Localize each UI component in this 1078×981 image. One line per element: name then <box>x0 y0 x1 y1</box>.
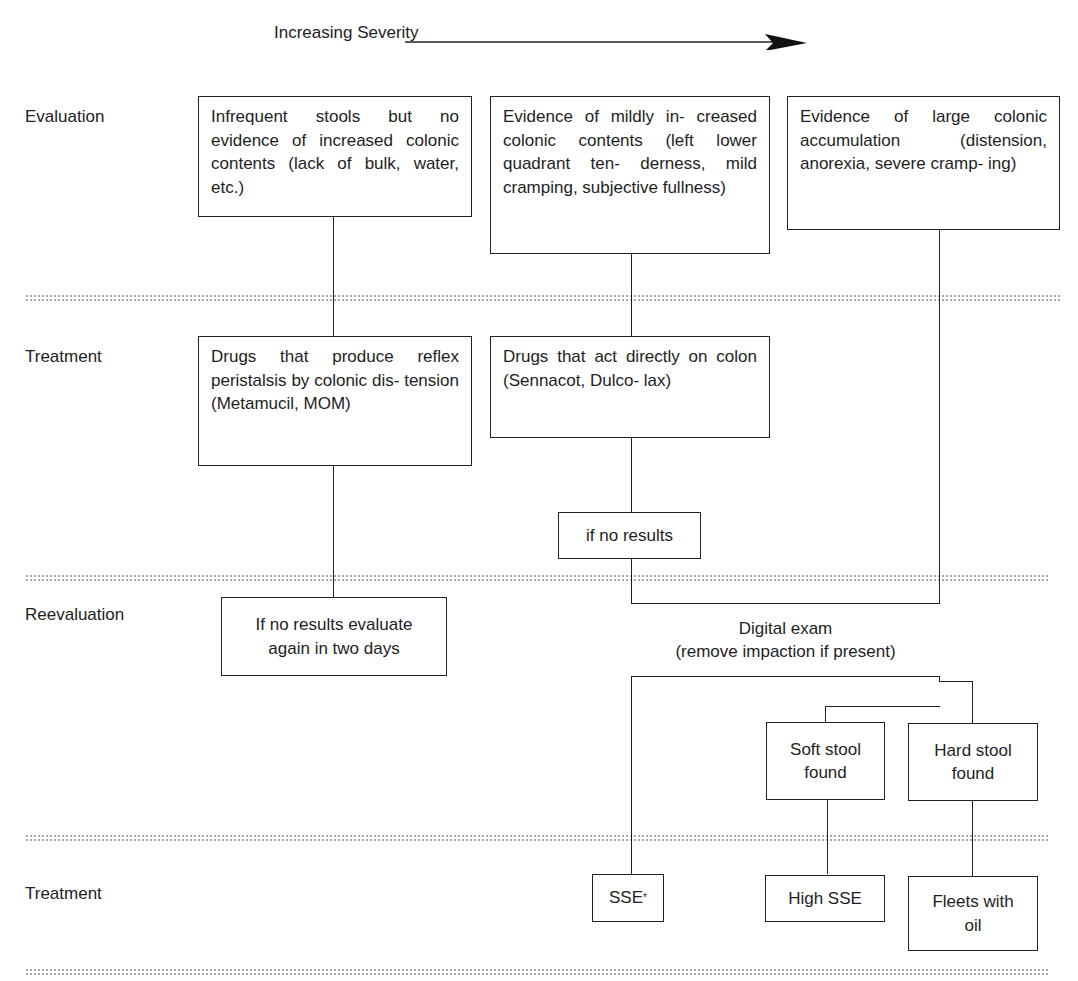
fleets-with-oil-box: Fleets with oil <box>908 876 1038 951</box>
severity-label: Increasing Severity <box>274 23 419 43</box>
row-label-treatment: Treatment <box>25 347 102 367</box>
row-separator <box>25 968 1050 975</box>
evaluation-box-mild-contents: Evidence of mildly in- creased colonic c… <box>490 96 770 254</box>
sse-box: SSE* <box>592 874 664 922</box>
footnote-asterisk: * <box>643 886 647 910</box>
evaluation-box-large-accumulation: Evidence of large colonic accumulation (… <box>787 96 1060 230</box>
treatment-box-reflex-peristalsis: Drugs that produce reflex peristalsis by… <box>198 336 472 466</box>
connector-line <box>631 437 632 513</box>
if-no-results-box: if no results <box>558 512 701 559</box>
row-label-final-treatment: Treatment <box>25 884 102 904</box>
row-separator <box>25 294 1062 301</box>
high-sse-box: High SSE <box>765 875 885 922</box>
row-label-reevaluation: Reevaluation <box>25 605 124 625</box>
connector-line <box>333 216 334 336</box>
connector-line <box>631 253 632 336</box>
right-arrow-icon <box>405 30 810 50</box>
soft-stool-found-box: Soft stool found <box>766 722 885 800</box>
connector-line <box>827 799 828 874</box>
treatment-box-direct-colon: Drugs that act directly on colon (Sennac… <box>490 336 770 438</box>
digital-exam-box: Digital exam (remove impaction if presen… <box>631 603 940 677</box>
reevaluation-box-two-days: If no results evaluate again in two days <box>221 597 447 676</box>
hard-stool-found-box: Hard stool found <box>908 723 1038 801</box>
connector-line <box>939 681 973 682</box>
row-separator <box>25 834 1050 841</box>
connector-line <box>972 801 973 876</box>
evaluation-box-infrequent-stools: Infrequent stools but no evidence of inc… <box>198 96 472 217</box>
connector-line <box>825 706 940 707</box>
connector-line <box>333 465 334 598</box>
row-separator <box>25 574 1050 581</box>
row-label-evaluation: Evaluation <box>25 107 104 127</box>
